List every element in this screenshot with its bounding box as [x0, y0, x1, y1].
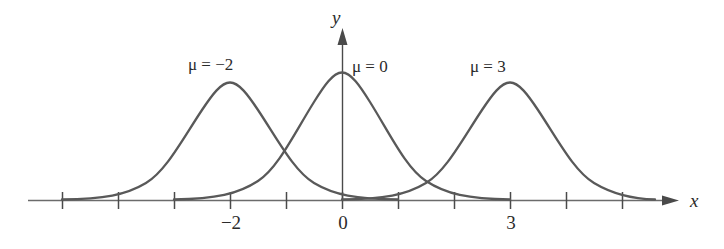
y-axis-label: y — [332, 8, 340, 27]
curve-label-mu-neg2: μ = −2 — [188, 56, 233, 73]
y-axis-arrowhead — [338, 28, 348, 45]
normal-curve-mu-3 — [342, 83, 655, 200]
x-tick-label-zero: 0 — [329, 213, 357, 232]
plot-canvas — [0, 0, 724, 249]
normal-curves-figure: y x −2 0 3 μ = −2 μ = 0 μ = 3 — [0, 0, 724, 249]
normal-curve-mu-neg2 — [62, 83, 398, 200]
curve-label-mu-0: μ = 0 — [352, 58, 388, 75]
x-tick-label-three: 3 — [497, 213, 525, 232]
x-tick-label-minus2: −2 — [212, 213, 250, 232]
x-axis-label: x — [690, 191, 698, 210]
curve-label-mu-3: μ = 3 — [470, 58, 506, 75]
x-axis-arrowhead — [662, 196, 679, 206]
